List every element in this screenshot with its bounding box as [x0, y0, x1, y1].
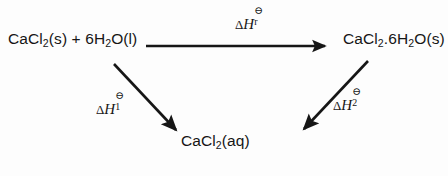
- enthalpy-label-step-two: ΔH⊖2: [333, 95, 363, 113]
- script-stack-step-one: ⊖1: [115, 99, 126, 114]
- node-reactants: CaCl2(s) + 6H2O(l): [8, 31, 137, 47]
- enthalpy-symbol: H: [243, 16, 254, 32]
- enthalpy-label-step-one: ΔH⊖1: [96, 99, 126, 117]
- enthalpy-subscript: 1: [115, 102, 120, 112]
- node-reactants-tail: O(l): [111, 30, 137, 47]
- enthalpy-symbol: H: [341, 97, 352, 113]
- script-stack-step-two: ⊖2: [352, 95, 363, 110]
- hess-cycle-diagram: CaCl2(s) + 6H2O(l) CaCl2.6H2O(s) CaCl2(a…: [0, 0, 448, 176]
- node-reactants-text: CaCl: [8, 30, 43, 47]
- enthalpy-subscript: r: [254, 17, 257, 27]
- node-aqueous: CaCl2(aq): [181, 133, 250, 149]
- node-aqueous-text: CaCl: [181, 132, 216, 149]
- node-aqueous-tail: (aq): [222, 132, 250, 149]
- node-reactants-mid: (s) + 6H: [49, 30, 105, 47]
- node-hydrate-text: CaCl: [343, 30, 378, 47]
- enthalpy-symbol: H: [104, 101, 115, 117]
- enthalpy-label-reaction: ΔH⊖r: [235, 14, 265, 32]
- node-hydrate-mid: .6H: [384, 30, 408, 47]
- script-stack-reaction: ⊖r: [254, 14, 265, 29]
- node-hydrate-tail: O(s): [414, 30, 445, 47]
- enthalpy-subscript: 2: [352, 98, 357, 108]
- arrow-layer: [0, 0, 448, 176]
- node-hydrate: CaCl2.6H2O(s): [343, 31, 445, 47]
